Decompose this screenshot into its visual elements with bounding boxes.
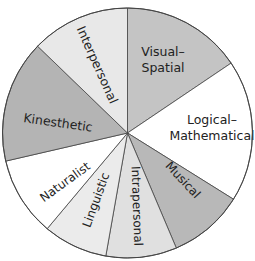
label-visual-spatial: Visual–Spatial bbox=[141, 44, 185, 75]
label-intrapersonal: Intrapersonal bbox=[129, 166, 146, 246]
intelligences-wheel: Visual–SpatialLogical–MathematicalMusica… bbox=[0, 0, 255, 261]
